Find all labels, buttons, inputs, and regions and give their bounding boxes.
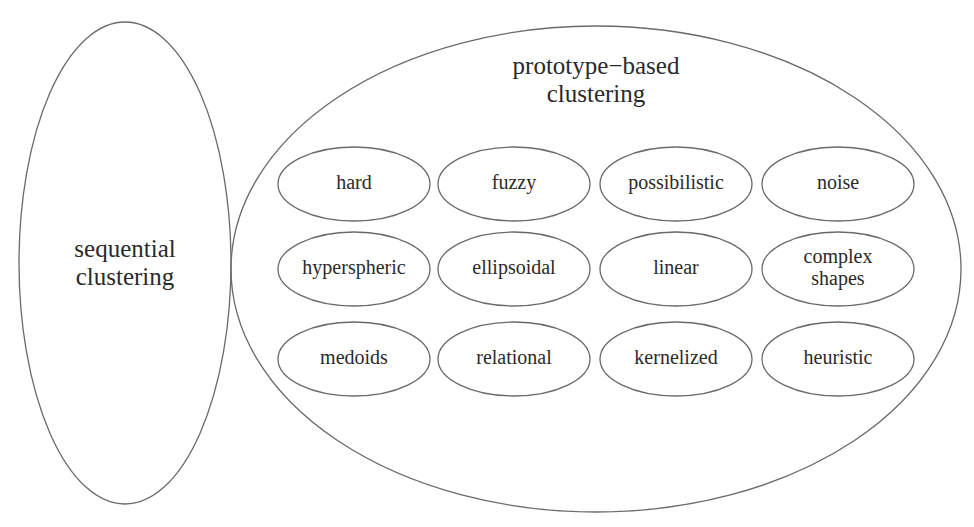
noise-label: noise [817,171,859,193]
prototype-based-clustering-label: prototype−based clustering [513,52,680,108]
label-line: complex [804,245,873,267]
label-line: noise [817,171,859,193]
label-line: linear [653,256,699,278]
linear-label: linear [653,256,699,278]
medoids-label: medoids [320,346,388,368]
label-line: shapes [804,267,873,289]
sequential-clustering-label: sequential clustering [74,235,175,291]
label-line: medoids [320,346,388,368]
hyperspheric-label: hyperspheric [302,256,405,278]
ellipsoidal-label: ellipsoidal [472,256,555,278]
label-line: hard [336,171,372,193]
label-line: fuzzy [492,171,536,193]
heuristic-label: heuristic [804,346,873,368]
label-line: relational [476,346,552,368]
relational-label: relational [476,346,552,368]
hard-label: hard [336,171,372,193]
label-line: kernelized [634,346,717,368]
label-line: possibilistic [628,171,724,193]
label-line: prototype−based [513,52,680,80]
label-line: ellipsoidal [472,256,555,278]
label-line: sequential [74,235,175,263]
complex-shapes-label: complexshapes [804,245,873,290]
label-line: heuristic [804,346,873,368]
kernelized-label: kernelized [634,346,717,368]
fuzzy-label: fuzzy [492,171,536,193]
label-line: hyperspheric [302,256,405,278]
label-line: clustering [513,80,680,108]
possibilistic-label: possibilistic [628,171,724,193]
label-line: clustering [74,263,175,291]
